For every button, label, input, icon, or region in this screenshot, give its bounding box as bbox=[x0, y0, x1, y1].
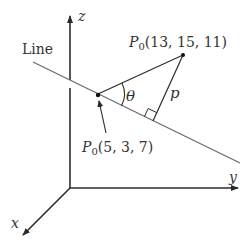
external-point-symbol: P bbox=[128, 34, 139, 50]
line-label: Line bbox=[22, 41, 53, 57]
external-point-dot bbox=[181, 53, 185, 57]
external-point-coords: (13, 15, 11) bbox=[145, 34, 227, 50]
z-axis-label: z bbox=[77, 8, 86, 24]
angle-arc bbox=[122, 83, 125, 106]
distance-point-to-line-diagram: z y x Line θ p P0(13, 15, 11) P0(5, 3, 7… bbox=[0, 0, 250, 243]
angle-theta-label: θ bbox=[126, 87, 135, 105]
pointer-arrow bbox=[99, 101, 106, 133]
external-point-label: P0(13, 15, 11) bbox=[128, 34, 227, 52]
x-axis-label: x bbox=[11, 215, 19, 231]
point-on-line-label: P0(5, 3, 7) bbox=[81, 139, 153, 157]
y-axis-label: y bbox=[228, 169, 238, 185]
point-on-line-coords: (5, 3, 7) bbox=[98, 139, 153, 155]
distance-p-label: p bbox=[170, 84, 180, 102]
x-axis bbox=[23, 188, 70, 235]
point-on-line-symbol: P bbox=[81, 139, 92, 155]
point-on-line-dot bbox=[96, 93, 100, 97]
